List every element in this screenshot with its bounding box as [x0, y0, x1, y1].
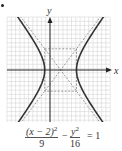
y-axis-label: y — [46, 5, 52, 16]
x-axis-arrow-icon — [106, 68, 112, 73]
hyperbola-plot: x y — [0, 0, 121, 124]
hyperbola-right-branch — [77, 0, 122, 124]
eq-denominator-1: 9 — [25, 138, 58, 149]
hyperbola-left-branch — [0, 0, 45, 124]
eq-numerator-1: (x − 2) — [26, 126, 54, 137]
eq-denominator-2: 16 — [70, 138, 80, 149]
x-axis-label: x — [113, 65, 119, 76]
y-axis-arrow-icon — [48, 17, 53, 23]
eq-minus: − — [62, 130, 68, 141]
equation: (x − 2)2 9 − y2 16 = 1 — [0, 124, 121, 151]
eq-rhs: = 1 — [87, 130, 100, 141]
fraction-1: (x − 2)2 9 — [25, 124, 58, 149]
fraction-2: y2 16 — [70, 124, 80, 149]
